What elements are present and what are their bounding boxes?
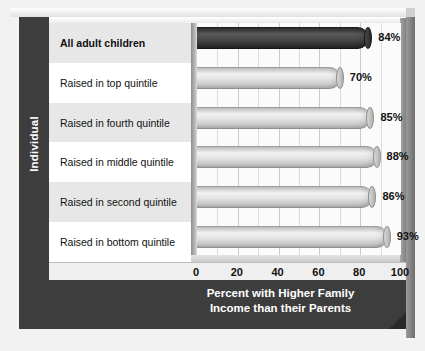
bar-value-label: 84% [378,31,400,43]
category-label: Raised in fourth quintile [60,117,170,129]
x-axis-title-panel: Percent with Higher Family Income than t… [19,280,406,329]
category-label: Raised in bottom quintile [60,236,175,248]
bar-end-cap [373,146,381,168]
x-tick-label: 20 [231,266,243,278]
gridline [299,23,300,255]
plot-area [191,17,406,262]
plot-card: All adult childrenRaised in top quintile… [49,17,406,270]
gridline [360,23,361,255]
plot-floor [191,255,400,262]
footer-chamfer [389,312,406,329]
x-tick-label: 100 [391,266,409,278]
gridline [258,23,259,255]
plot-canvas [196,23,401,255]
x-tick-label: 40 [271,266,283,278]
bar-end-cap [383,226,391,248]
bevel-top-edge [10,8,406,17]
category-label: Raised in middle quintile [60,156,174,168]
x-axis-ticks: 020406080100 [49,262,406,281]
bar-value-label: 85% [380,111,402,123]
bevel-corner [406,8,415,17]
bar-end-cap [336,67,344,89]
category-label: Raised in second quintile [60,196,177,208]
bar-end-cap [366,107,374,129]
chart-3d-block: Individual All adult childrenRaised in t… [10,8,415,338]
gridline [381,23,382,255]
gridline [279,23,280,255]
bar-value-label: 86% [382,190,404,202]
bar-end-cap [364,27,372,49]
gridline [340,23,341,255]
x-axis-title-line1: Percent with Higher Family [169,286,392,301]
gridline [319,23,320,255]
y-axis-title: Individual [28,116,40,172]
y-axis-title-strip: Individual [19,17,49,270]
bar-value-label: 70% [350,71,372,83]
x-tick-label: 0 [193,266,199,278]
bar [197,146,377,168]
x-tick-label: 60 [312,266,324,278]
bar [197,27,368,49]
x-axis-title-line2: Income than their Parents [169,301,392,316]
gridline [217,23,218,255]
bar [197,186,372,208]
bar [197,107,370,129]
chart-screenshot: Individual All adult childrenRaised in t… [0,0,425,351]
bar-end-cap [368,186,376,208]
x-tick-label: 80 [353,266,365,278]
bevel-right-edge [406,8,415,338]
bar [197,67,340,89]
bar-value-label: 93% [397,230,419,242]
category-label: All adult children [60,37,145,49]
x-axis-title: Percent with Higher Family Income than t… [169,286,392,316]
gridline [238,23,239,255]
category-label: Raised in top quintile [60,77,157,89]
bar-value-label: 88% [387,150,409,162]
bar [197,226,387,248]
